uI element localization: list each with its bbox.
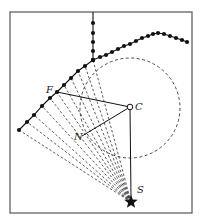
vertex-dot	[91, 21, 95, 25]
c-marker	[127, 104, 133, 110]
label-f: F	[45, 84, 54, 95]
segment-cs	[130, 107, 131, 198]
label-s: S	[137, 184, 144, 195]
vertex-dot	[162, 32, 166, 36]
diagram-canvas: F C N S	[0, 0, 201, 223]
segment-cn	[82, 107, 130, 136]
sight-line	[78, 71, 131, 202]
vertex-dot	[48, 96, 52, 100]
vertex-dot	[17, 128, 21, 132]
vertex-dot	[69, 76, 73, 80]
vertex-dot	[83, 64, 87, 68]
vertex-dot	[134, 39, 138, 43]
label-n: N	[73, 131, 84, 142]
vertex-dot	[25, 120, 29, 124]
vertex-dot	[76, 69, 80, 73]
vertex-dot	[174, 36, 178, 40]
label-c: C	[135, 101, 143, 112]
vertex-dot	[168, 34, 172, 38]
vertex-dot	[116, 47, 120, 51]
vertex-dot	[146, 34, 150, 38]
frame	[10, 12, 192, 213]
vertex-dot	[156, 31, 160, 35]
vertex-dot	[91, 49, 95, 53]
vertex-dot	[151, 32, 155, 36]
boundary-chains	[17, 12, 189, 132]
vertex-dot	[91, 31, 95, 35]
vertex-dot	[91, 40, 95, 44]
vertex-dot	[122, 44, 126, 48]
vertex-dot	[185, 40, 189, 44]
segment-fc	[57, 92, 130, 107]
vertex-dot	[140, 36, 144, 40]
vertex-dot	[62, 83, 66, 87]
vertex-dot	[128, 42, 132, 46]
sight-line	[57, 92, 131, 202]
vertex-dot	[40, 104, 44, 108]
vertex-dot	[104, 53, 108, 57]
vertex-dot	[110, 50, 114, 54]
vertex-dot	[180, 38, 184, 42]
vertex-dot	[32, 113, 36, 117]
sight-line	[42, 106, 131, 202]
left-chain	[19, 60, 93, 130]
sight-line	[93, 60, 131, 202]
vertex-dot	[91, 58, 95, 62]
vertex-dot	[98, 55, 102, 59]
